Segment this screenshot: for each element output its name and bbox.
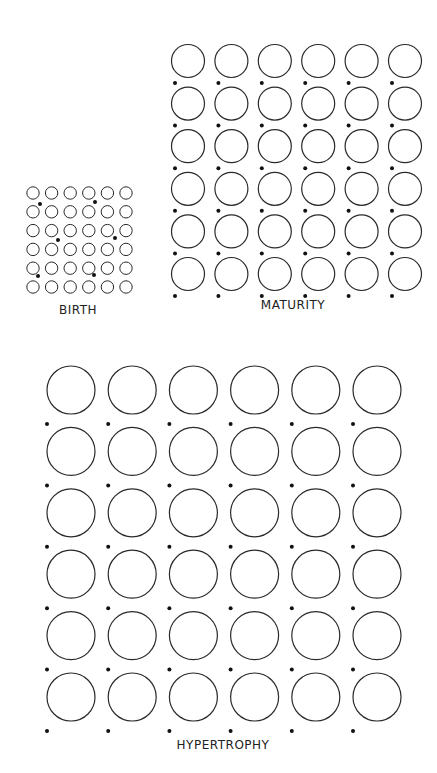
capillary-dot: [173, 294, 177, 298]
muscle-fiber: [120, 187, 132, 199]
muscle-fiber: [45, 206, 57, 218]
muscle-fiber: [120, 206, 132, 218]
capillary-dot: [167, 483, 171, 487]
muscle-fiber: [101, 206, 113, 218]
muscle-fiber: [353, 427, 401, 475]
birth-grid: [27, 187, 132, 293]
muscle-fiber: [47, 550, 95, 598]
muscle-fiber: [258, 258, 291, 291]
muscle-fiber: [120, 224, 132, 236]
muscle-fiber: [47, 673, 95, 721]
muscle-fiber: [120, 262, 132, 274]
muscle-fiber: [108, 550, 156, 598]
muscle-fiber: [83, 262, 95, 274]
capillary-dot: [173, 81, 177, 85]
muscle-fiber: [292, 612, 340, 660]
muscle-fiber: [169, 673, 217, 721]
capillary-dot: [260, 124, 264, 128]
muscle-fiber: [83, 243, 95, 255]
muscle-fiber: [45, 281, 57, 293]
muscle-fiber: [389, 215, 422, 248]
muscle-fiber: [258, 172, 291, 205]
capillary-dot: [290, 483, 294, 487]
muscle-fiber: [169, 489, 217, 537]
muscle-fiber: [215, 172, 248, 205]
muscle-fiber: [172, 172, 205, 205]
capillary-dot: [229, 668, 233, 672]
muscle-fiber: [353, 366, 401, 414]
muscle-fiber: [231, 366, 279, 414]
muscle-fiber: [169, 550, 217, 598]
capillary-dot: [167, 606, 171, 610]
capillary-dot: [260, 209, 264, 213]
muscle-fiber: [83, 281, 95, 293]
muscle-fiber: [353, 550, 401, 598]
muscle-fiber: [172, 87, 205, 120]
capillary-dot: [216, 251, 220, 255]
capillary-dot: [106, 606, 110, 610]
muscle-fiber: [64, 224, 76, 236]
muscle-fiber: [45, 224, 57, 236]
muscle-fiber: [215, 215, 248, 248]
capillary-dot: [347, 209, 351, 213]
capillary-dot: [216, 81, 220, 85]
muscle-fiber: [64, 262, 76, 274]
muscle-fiber: [302, 172, 335, 205]
capillary-dot: [45, 545, 49, 549]
muscle-fiber: [345, 258, 378, 291]
capillary-dot: [106, 422, 110, 426]
capillary-dot: [167, 729, 171, 733]
muscle-fiber: [120, 243, 132, 255]
capillary-dot: [229, 422, 233, 426]
muscle-fiber: [292, 427, 340, 475]
capillary-dot: [390, 124, 394, 128]
capillary-dot: [38, 202, 42, 206]
muscle-fiber: [258, 130, 291, 163]
maturity-label: MATURITY: [261, 298, 325, 312]
muscle-fiber: [108, 612, 156, 660]
capillary-dot: [229, 606, 233, 610]
muscle-fiber: [47, 366, 95, 414]
muscle-fiber: [64, 206, 76, 218]
muscle-fiber: [231, 427, 279, 475]
capillary-dot: [216, 294, 220, 298]
muscle-fiber: [27, 206, 39, 218]
muscle-fiber: [45, 187, 57, 199]
muscle-fiber: [172, 215, 205, 248]
capillary-dot: [347, 294, 351, 298]
capillary-dot: [390, 251, 394, 255]
capillary-dot: [390, 81, 394, 85]
capillary-dot: [303, 251, 307, 255]
muscle-fiber: [108, 673, 156, 721]
muscle-fiber: [389, 130, 422, 163]
muscle-fiber: [292, 489, 340, 537]
capillary-dot: [351, 545, 355, 549]
capillary-dot: [56, 238, 60, 242]
muscle-fiber: [108, 427, 156, 475]
muscle-fiber: [47, 427, 95, 475]
capillary-dot: [351, 483, 355, 487]
muscle-fiber: [169, 427, 217, 475]
capillary-dot: [167, 422, 171, 426]
capillary-dot: [229, 483, 233, 487]
muscle-fiber: [345, 130, 378, 163]
capillary-dot: [347, 124, 351, 128]
muscle-fiber: [27, 243, 39, 255]
capillary-dot: [92, 273, 96, 277]
capillary-dot: [45, 422, 49, 426]
muscle-fiber: [258, 87, 291, 120]
capillary-dot: [390, 166, 394, 170]
muscle-fiber: [231, 489, 279, 537]
muscle-fiber: [292, 366, 340, 414]
capillary-dot: [303, 81, 307, 85]
muscle-fiber: [169, 612, 217, 660]
capillary-dot: [347, 166, 351, 170]
capillary-dot: [45, 668, 49, 672]
capillary-dot: [113, 236, 117, 240]
muscle-fiber: [292, 673, 340, 721]
muscle-fiber: [345, 172, 378, 205]
capillary-dot: [45, 483, 49, 487]
hypertrophy-label: HYPERTROPHY: [177, 738, 270, 752]
capillary-dot: [351, 422, 355, 426]
capillary-dot: [106, 483, 110, 487]
